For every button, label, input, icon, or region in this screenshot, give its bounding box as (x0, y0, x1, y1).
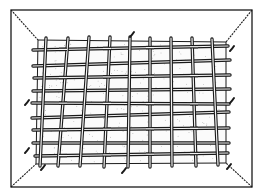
peg-icon (122, 168, 126, 173)
peg-icon (230, 46, 234, 51)
corner-edge (11, 10, 38, 40)
corner-edge (11, 164, 36, 187)
peg-icon (25, 148, 29, 153)
peg-icon (130, 32, 134, 37)
woven-stick-frame-illustration (0, 0, 263, 195)
corner-edge (226, 10, 252, 42)
peg-icon (230, 98, 234, 103)
peg-icon (25, 100, 29, 105)
